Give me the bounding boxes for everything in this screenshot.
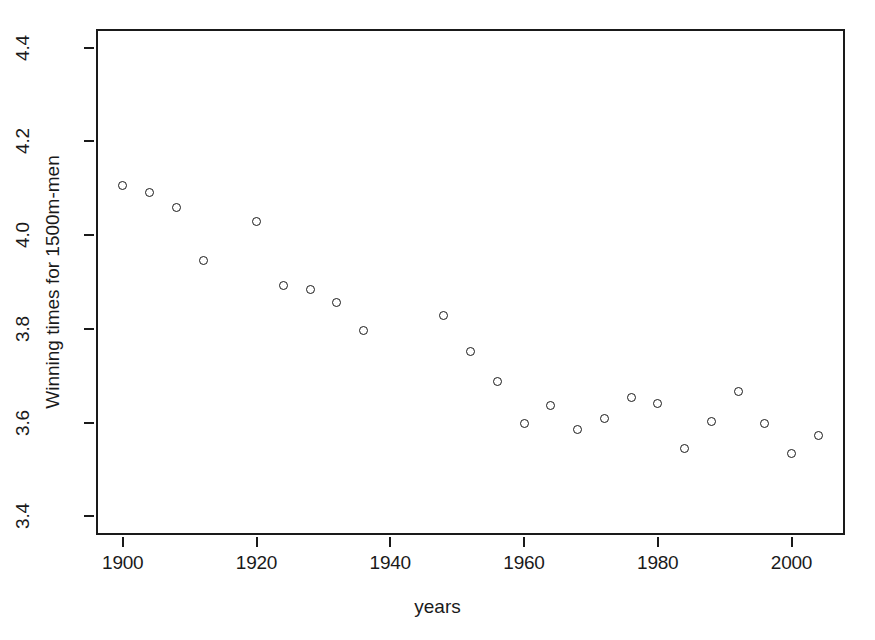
x-axis-tick-label: 2000 bbox=[771, 552, 812, 574]
y-axis-title: Winning times for 1500m-men bbox=[42, 29, 64, 535]
y-axis-tick-label: 3.6 bbox=[12, 410, 34, 436]
x-axis-tick-label: 1900 bbox=[102, 552, 143, 574]
y-axis-tick-label: 3.8 bbox=[12, 316, 34, 342]
x-axis-tick-label: 1940 bbox=[370, 552, 411, 574]
y-axis-tick-label: 4.2 bbox=[12, 129, 34, 155]
x-axis-tick bbox=[256, 537, 258, 547]
x-axis-tick-label: 1980 bbox=[637, 552, 678, 574]
y-axis-tick-label: 4.4 bbox=[12, 35, 34, 61]
y-axis-tick bbox=[84, 328, 94, 330]
y-axis-tick bbox=[84, 140, 94, 142]
x-axis-tick bbox=[523, 537, 525, 547]
y-axis-tick bbox=[84, 422, 94, 424]
plot-area-frame bbox=[96, 29, 845, 535]
y-axis-tick-label: 4.0 bbox=[12, 222, 34, 248]
y-axis-tick bbox=[84, 47, 94, 49]
y-axis-tick-label: 3.4 bbox=[12, 503, 34, 529]
x-axis-tick bbox=[657, 537, 659, 547]
x-axis-tick bbox=[791, 537, 793, 547]
y-axis-tick bbox=[84, 234, 94, 236]
x-axis-tick-label: 1920 bbox=[236, 552, 277, 574]
scatter-plot-figure: 1900192019401960198020003.43.63.84.04.24… bbox=[0, 0, 875, 640]
x-axis-tick bbox=[122, 537, 124, 547]
x-axis-title: years bbox=[0, 596, 875, 618]
x-axis-tick-label: 1960 bbox=[503, 552, 544, 574]
y-axis-tick bbox=[84, 515, 94, 517]
x-axis-tick bbox=[389, 537, 391, 547]
